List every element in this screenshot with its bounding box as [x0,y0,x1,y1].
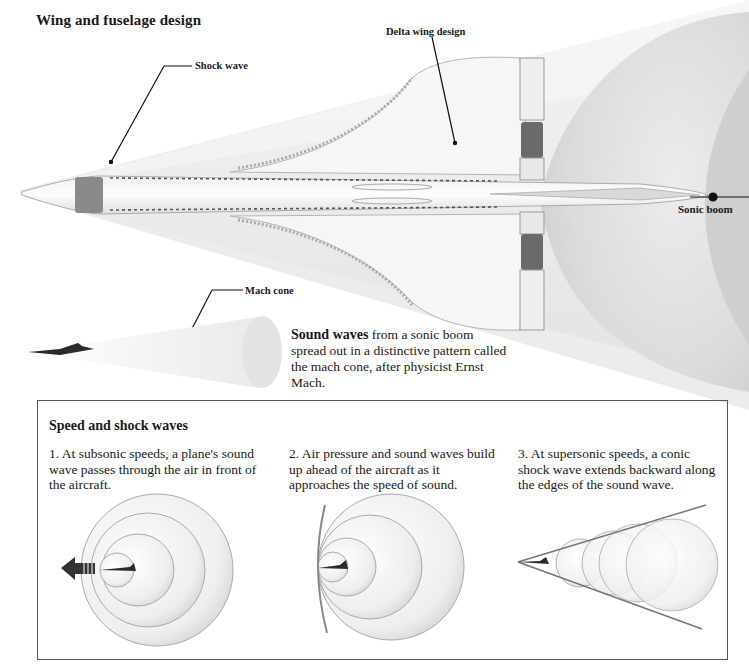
caption-bold: Sound waves [291,327,368,342]
step-1-text: 1. At subsonic speeds, a plane's sound w… [49,446,259,493]
mach-cone [28,316,282,388]
label-sonic-boom: Sonic boom [678,203,733,215]
label-mach-cone: Mach cone [245,285,294,296]
speed-and-shock-waves-panel [37,400,728,660]
page-title: Wing and fuselage design [36,12,201,29]
label-shock-wave: Shock wave [195,60,248,71]
step-2-text: 2. Air pressure and sound waves build up… [289,446,499,493]
label-delta-wing: Delta wing design [386,26,465,37]
panel-title: Speed and shock waves [49,418,188,434]
step-3-text: 3. At supersonic speeds, a conic shock w… [518,446,723,493]
mach-cone-caption: Sound waves from a sonic boom spread out… [291,327,511,391]
